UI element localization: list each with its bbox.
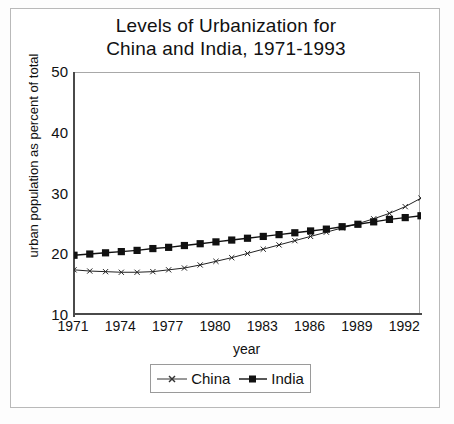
data-point-india xyxy=(102,249,109,256)
data-point-india xyxy=(386,216,393,223)
data-point-india xyxy=(260,233,267,240)
x-axis-tick-1971: 1971 xyxy=(49,318,97,334)
data-point-india xyxy=(291,229,298,236)
x-axis-tick-1983: 1983 xyxy=(238,318,286,334)
x-axis-tick-1980: 1980 xyxy=(191,318,239,334)
data-point-china xyxy=(403,204,408,209)
legend-item-india[interactable]: India xyxy=(239,370,304,387)
chart-page: Levels of Urbanization for China and Ind… xyxy=(0,0,454,424)
y-axis-tick-30: 30 xyxy=(38,185,68,202)
x-axis-tick-1992: 1992 xyxy=(380,318,428,334)
data-point-india xyxy=(212,238,219,245)
x-axis-tick-1986: 1986 xyxy=(286,318,334,334)
data-point-india xyxy=(339,223,346,230)
data-point-india xyxy=(118,248,125,255)
legend-marker-china-icon xyxy=(157,373,187,385)
data-point-india xyxy=(181,242,188,249)
data-point-india xyxy=(197,240,204,247)
series-plot xyxy=(74,73,421,316)
legend-label-china: China xyxy=(191,370,230,387)
legend-label-india: India xyxy=(271,370,304,387)
data-point-india xyxy=(402,214,409,221)
x-axis-tick-labels: 19711974197719801983198619891992 xyxy=(73,318,420,338)
data-point-india xyxy=(323,226,330,233)
data-point-india xyxy=(74,252,78,259)
plot-area xyxy=(73,72,420,315)
y-axis-tick-labels: 5040302010 xyxy=(36,72,68,315)
data-point-india xyxy=(275,231,282,238)
chart-title-line-2: China and India, 1971-1993 xyxy=(24,37,428,60)
x-axis-title: year xyxy=(73,341,420,357)
x-axis-tick-1974: 1974 xyxy=(96,318,144,334)
y-axis-tick-20: 20 xyxy=(38,245,68,262)
data-point-india xyxy=(307,227,314,234)
x-axis-tick-1977: 1977 xyxy=(144,318,192,334)
y-axis-tick-50: 50 xyxy=(38,63,68,80)
data-point-india xyxy=(354,221,361,228)
legend-marker-india-icon xyxy=(239,373,267,385)
data-point-india xyxy=(228,236,235,243)
legend-item-china[interactable]: China xyxy=(157,370,230,387)
x-axis-tick-1989: 1989 xyxy=(333,318,381,334)
chart-legend: China India xyxy=(150,364,311,393)
data-point-india xyxy=(417,212,421,219)
data-point-india xyxy=(86,250,93,257)
data-point-india xyxy=(133,247,140,254)
data-point-india xyxy=(370,218,377,225)
y-axis-tick-40: 40 xyxy=(38,124,68,141)
data-point-china xyxy=(387,211,392,216)
data-point-india xyxy=(165,244,172,251)
data-point-china xyxy=(418,196,421,201)
data-point-india xyxy=(244,235,251,242)
data-point-india xyxy=(149,245,156,252)
chart-title: Levels of Urbanization for China and Ind… xyxy=(24,14,428,60)
chart-title-line-1: Levels of Urbanization for xyxy=(24,14,428,37)
